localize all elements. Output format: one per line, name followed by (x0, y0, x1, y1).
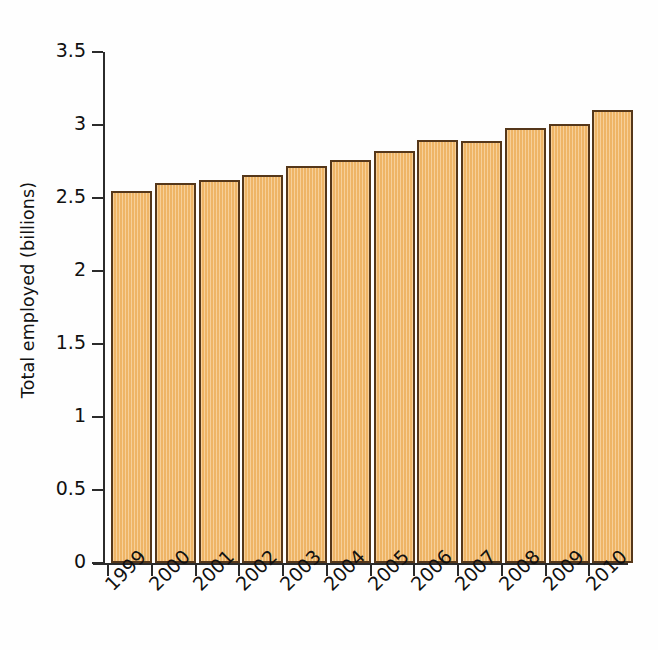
y-tick: 1.5 (92, 343, 103, 345)
bar (592, 110, 633, 563)
bar (461, 141, 502, 563)
x-tick-label: 1999 (101, 546, 149, 594)
bar (199, 180, 240, 563)
bar (417, 140, 458, 563)
y-tick: 1 (92, 416, 103, 418)
y-tick-label: 3.5 (56, 40, 86, 60)
y-tick-label: 0 (74, 551, 86, 571)
plot-area: 00.511.522.533.5 19992000200120022003200… (103, 52, 628, 564)
y-tick: 2.5 (92, 197, 103, 199)
bar (374, 151, 415, 563)
y-axis-line (103, 52, 105, 565)
y-tick: 0 (92, 562, 103, 564)
y-tick-label: 1 (74, 405, 86, 425)
y-tick: 3.5 (92, 51, 103, 53)
bar (111, 191, 152, 563)
y-tick: 0.5 (92, 489, 103, 491)
y-tick-label: 2 (74, 259, 86, 279)
bar (505, 128, 546, 563)
bar (330, 160, 371, 563)
bar (549, 124, 590, 563)
bar (155, 183, 196, 563)
y-axis-title: Total employed (billions) (0, 0, 56, 580)
y-tick: 3 (92, 124, 103, 126)
y-axis-title-text: Total employed (billions) (18, 182, 38, 398)
y-tick-label: 0.5 (56, 478, 86, 498)
bar (242, 175, 283, 563)
y-tick: 2 (92, 270, 103, 272)
bar-chart-figure: Total employed (billions) 00.511.522.533… (0, 0, 658, 650)
y-tick-label: 1.5 (56, 332, 86, 352)
y-tick-label: 3 (74, 113, 86, 133)
bar (286, 166, 327, 563)
y-tick-label: 2.5 (56, 186, 86, 206)
